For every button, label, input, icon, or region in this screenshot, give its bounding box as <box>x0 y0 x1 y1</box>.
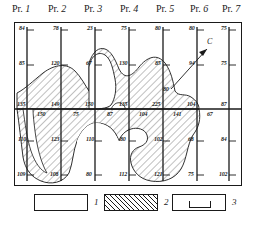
value-bottom-4: 112 <box>119 171 127 177</box>
plot-frame: 84 78 23 75 80 80 75 85 120 67 130 85 94… <box>14 22 242 186</box>
legend: 1 2 3 <box>0 188 254 228</box>
profile-header-2: Pr. 2 <box>48 3 66 14</box>
value-upper-6: 94 <box>189 60 195 66</box>
value-axis-above-1: 135 <box>17 101 25 107</box>
value-axis-above-4: 135 <box>119 101 127 107</box>
value-lower-2: 123 <box>51 136 59 142</box>
value-bottom-3: 80 <box>86 171 92 177</box>
legend-number-1: 1 <box>94 197 99 207</box>
value-bottom-5: 121 <box>154 171 162 177</box>
value-lower-3: 110 <box>86 136 94 142</box>
value-axis-above-6: 104 <box>187 101 195 107</box>
legend-number-3: 3 <box>232 197 237 207</box>
value-upper-2: 120 <box>51 60 59 66</box>
value-top-2: 78 <box>53 25 59 31</box>
legend-item-2: 2 <box>104 194 182 212</box>
value-top-1: 84 <box>19 25 25 31</box>
value-axis-below-5: 141 <box>173 111 181 117</box>
value-axis-above-2: 149 <box>51 101 59 107</box>
profile-header-6-prefix: Pr. <box>190 3 201 14</box>
profile-header-5-prefix: Pr. <box>156 3 167 14</box>
profile-header-2-prefix: Pr. <box>48 3 59 14</box>
profile-header-4-number: 4 <box>133 3 138 14</box>
c-arrow-shaft <box>171 49 207 89</box>
plot-drawing <box>15 23 241 185</box>
value-axis-above-3: 150 <box>85 101 93 107</box>
c-axis-label: C <box>207 37 212 46</box>
legend-item-1: 1 <box>34 194 112 212</box>
value-top-6: 80 <box>189 25 195 31</box>
value-axis-below-4: 104 <box>139 111 147 117</box>
value-upper-7: 75 <box>221 60 227 66</box>
profile-header-1-number: 1 <box>25 3 30 14</box>
value-axis-below-3: 87 <box>107 111 113 117</box>
value-lower-4: 80 <box>120 136 126 142</box>
value-bottom-2: 108 <box>50 171 58 177</box>
value-upper-3: 67 <box>86 60 92 66</box>
value-lower-5: 102 <box>154 136 162 142</box>
value-upper-4: 130 <box>119 60 127 66</box>
value-bottom-1: 109 <box>17 171 25 177</box>
value-bottom-7: 102 <box>219 171 227 177</box>
value-upper-5: 85 <box>155 60 161 66</box>
value-top-4: 75 <box>121 25 127 31</box>
value-top-7: 75 <box>221 25 227 31</box>
value-bottom-6: 75 <box>188 171 194 177</box>
profile-header-3: Pr. 3 <box>84 3 102 14</box>
profile-header-6: Pr. 6 <box>190 3 208 14</box>
value-lower-1: 110 <box>18 136 26 142</box>
value-top-5: 80 <box>155 25 161 31</box>
legend-ushape-glyph <box>189 201 211 208</box>
value-c-marker: 80 <box>163 86 169 92</box>
profile-header-row: Pr. 1 Pr. 2 Pr. 3 Pr. 4 Pr. 5 Pr. 6 Pr. … <box>0 0 254 22</box>
profile-header-1-prefix: Pr. <box>12 3 23 14</box>
value-axis-below-2: 75 <box>73 111 79 117</box>
value-axis-below-6: 67 <box>207 111 213 117</box>
figure-root: Pr. 1 Pr. 2 Pr. 3 Pr. 4 Pr. 5 Pr. 6 Pr. … <box>0 0 254 228</box>
profile-header-1: Pr. 1 <box>12 3 30 14</box>
profile-header-3-prefix: Pr. <box>84 3 95 14</box>
profile-header-4: Pr. 4 <box>120 3 138 14</box>
profile-header-4-prefix: Pr. <box>120 3 131 14</box>
profile-header-7-prefix: Pr. <box>222 3 233 14</box>
profile-header-5-number: 5 <box>169 3 174 14</box>
profile-header-7: Pr. 7 <box>222 3 240 14</box>
profile-header-5: Pr. 5 <box>156 3 174 14</box>
value-upper-1: 85 <box>19 60 25 66</box>
value-axis-above-7: 87 <box>221 101 227 107</box>
value-axis-below-1: 150 <box>37 111 45 117</box>
value-lower-6: 68 <box>188 136 194 142</box>
c-arrow-head <box>199 49 207 56</box>
profile-header-6-number: 6 <box>203 3 208 14</box>
value-lower-7: 84 <box>221 136 227 142</box>
legend-number-2: 2 <box>164 197 169 207</box>
legend-item-3: 3 <box>172 194 250 212</box>
legend-ushape-box <box>172 194 226 211</box>
value-top-3: 23 <box>87 25 93 31</box>
profile-header-2-number: 2 <box>61 3 66 14</box>
profile-header-7-number: 7 <box>235 3 240 14</box>
legend-empty-box <box>34 194 88 211</box>
legend-hatched-box <box>104 194 158 211</box>
value-axis-above-5: 225 <box>152 101 160 107</box>
profile-header-3-number: 3 <box>97 3 102 14</box>
